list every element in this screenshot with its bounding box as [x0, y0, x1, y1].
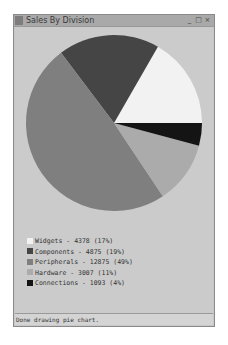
legend-swatch	[27, 259, 33, 265]
close-button[interactable]: ×	[204, 17, 211, 24]
pie-chart	[22, 31, 206, 215]
chart-area: Widgets - 4378 (17%) Components - 4875 (…	[15, 27, 213, 314]
legend-swatch	[27, 238, 33, 244]
legend-item-hardware: Hardware - 3007 (11%)	[27, 268, 133, 279]
legend-swatch	[27, 248, 33, 254]
status-bar: Done drawing pie chart.	[15, 313, 213, 325]
title-bar[interactable]: Sales By Division _ □ ×	[14, 15, 214, 27]
chart-legend: Widgets - 4378 (17%) Components - 4875 (…	[27, 236, 133, 289]
minimize-button[interactable]: _	[186, 17, 193, 24]
legend-item-connections: Connections - 1093 (4%)	[27, 278, 133, 289]
window-title: Sales By Division	[26, 15, 94, 26]
legend-swatch	[27, 280, 33, 286]
legend-item-components: Components - 4875 (19%)	[27, 247, 133, 258]
legend-item-peripherals: Peripherals - 12875 (49%)	[27, 257, 133, 268]
window-menu-icon[interactable]	[15, 16, 23, 25]
status-text: Done drawing pie chart.	[16, 314, 99, 325]
maximize-button[interactable]: □	[195, 17, 202, 24]
legend-item-widgets: Widgets - 4378 (17%)	[27, 236, 133, 247]
chart-window: Sales By Division _ □ × Widgets - 4378 (…	[13, 14, 215, 327]
legend-swatch	[27, 269, 33, 275]
